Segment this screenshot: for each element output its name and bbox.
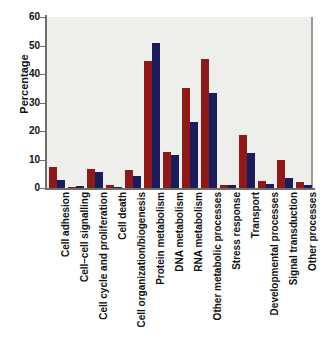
x-axis-label: Cell–cell signalling bbox=[80, 192, 90, 282]
bar-series-2 bbox=[114, 187, 122, 188]
bar-group bbox=[104, 17, 123, 188]
y-tick: 60 bbox=[0, 17, 40, 18]
x-axis-label: Cell death bbox=[118, 192, 128, 240]
bar-series-1 bbox=[277, 160, 285, 188]
x-axis-label: Cell cycle and proliferation bbox=[99, 192, 109, 320]
y-tick-label: 60 bbox=[18, 12, 40, 22]
bar-series-1 bbox=[68, 187, 76, 188]
bar-series-1 bbox=[87, 169, 95, 188]
bar-series-2 bbox=[133, 176, 141, 188]
bar-group bbox=[123, 17, 142, 188]
y-tick-mark bbox=[40, 103, 45, 104]
y-tick-mark bbox=[40, 160, 45, 161]
bar-group bbox=[85, 17, 104, 188]
x-axis-label: Cell organization/biogenesis bbox=[137, 192, 147, 328]
x-axis-label: Protein metabolism bbox=[156, 192, 166, 285]
bar-group bbox=[275, 17, 294, 188]
y-tick: 20 bbox=[0, 131, 40, 132]
x-axis-label: Other processes bbox=[308, 192, 318, 271]
bar-series-2 bbox=[247, 153, 255, 188]
y-tick-mark bbox=[40, 17, 45, 18]
bar-series-1 bbox=[201, 59, 209, 188]
bar-series-2 bbox=[209, 93, 217, 188]
bar-series-1 bbox=[182, 88, 190, 188]
bar-series-1 bbox=[49, 167, 57, 188]
bar-series-2 bbox=[304, 185, 312, 188]
y-tick-label: 50 bbox=[18, 41, 40, 51]
y-tick-label: 20 bbox=[18, 126, 40, 136]
y-tick-label: 10 bbox=[18, 155, 40, 165]
bar-series-1 bbox=[163, 152, 171, 188]
y-tick-label: 30 bbox=[18, 98, 40, 108]
bar-series-2 bbox=[57, 180, 65, 188]
bar-chart: Percentage 0102030405060 Cell adhesionCe… bbox=[0, 0, 332, 344]
bar-group bbox=[142, 17, 161, 188]
bar-series-1 bbox=[144, 61, 152, 188]
y-tick-label: 0 bbox=[18, 183, 40, 193]
x-axis-label: Stress response bbox=[232, 192, 242, 270]
y-tick: 0 bbox=[0, 188, 40, 189]
bar-series-2 bbox=[76, 186, 84, 188]
bar-group bbox=[66, 17, 85, 188]
y-tick: 40 bbox=[0, 74, 40, 75]
x-axis-label: Developmental processes bbox=[270, 192, 280, 315]
y-tick-mark bbox=[40, 131, 45, 132]
bar-series-1 bbox=[296, 182, 304, 188]
bar-series-2 bbox=[171, 155, 179, 188]
bar-series-1 bbox=[125, 170, 133, 188]
bar-group bbox=[199, 17, 218, 188]
bar-series-2 bbox=[266, 184, 274, 188]
x-axis-line bbox=[45, 188, 315, 190]
y-tick: 30 bbox=[0, 103, 40, 104]
x-axis-label: Other metabolic processes bbox=[213, 192, 223, 320]
y-tick-label: 40 bbox=[18, 69, 40, 79]
bar-series-2 bbox=[285, 178, 293, 188]
bar-group bbox=[180, 17, 199, 188]
bar-group bbox=[294, 17, 313, 188]
x-axis-label: RNA metabolism bbox=[194, 192, 204, 272]
bar-series-2 bbox=[190, 122, 198, 188]
bar-series-1 bbox=[258, 181, 266, 188]
bar-series-2 bbox=[95, 172, 103, 188]
bar-group bbox=[218, 17, 237, 188]
bar-series-1 bbox=[220, 185, 228, 188]
x-axis-label: Signal transduction bbox=[289, 192, 299, 285]
bars-layer bbox=[47, 17, 313, 188]
x-axis-labels: Cell adhesionCell–cell signallingCell cy… bbox=[47, 192, 313, 344]
bar-group bbox=[237, 17, 256, 188]
y-tick: 50 bbox=[0, 46, 40, 47]
bar-series-1 bbox=[239, 135, 247, 188]
x-axis-label: Cell adhesion bbox=[61, 192, 71, 257]
x-axis-label: DNA metabolism bbox=[175, 192, 185, 272]
x-axis-label: Transport bbox=[251, 192, 261, 238]
bar-group bbox=[47, 17, 66, 188]
bar-series-2 bbox=[228, 185, 236, 188]
bar-group bbox=[161, 17, 180, 188]
y-tick-mark bbox=[40, 188, 45, 189]
y-tick-mark bbox=[40, 74, 45, 75]
bar-group bbox=[256, 17, 275, 188]
y-tick-mark bbox=[40, 46, 45, 47]
y-tick: 10 bbox=[0, 160, 40, 161]
bar-series-2 bbox=[152, 43, 160, 188]
bar-series-1 bbox=[106, 185, 114, 188]
